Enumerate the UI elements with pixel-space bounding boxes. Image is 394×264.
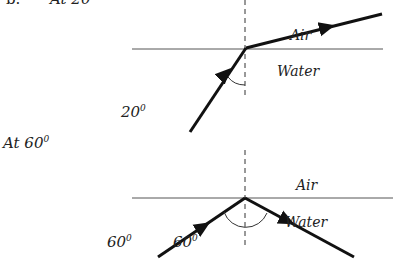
medium-air-label: Air: [288, 27, 313, 43]
angle-arc: [228, 77, 245, 85]
diagram-2-heading: At 600: [1, 134, 49, 152]
diagram-at-60: At 600 Air Water 600 600: [1, 134, 393, 257]
medium-water-label: Water: [277, 63, 320, 79]
incident-arrow-icon: [196, 226, 204, 231]
medium-air-label: Air: [294, 177, 319, 193]
refraction-diagrams: b. At 200 Air Water 200 At 600 Air Wat: [0, 0, 394, 264]
refracted-arrow-icon: [320, 27, 328, 29]
refracted-ray: [246, 14, 382, 48]
angle-label: 200: [120, 103, 146, 121]
angle-label-inner: 600: [173, 233, 198, 251]
medium-water-label: Water: [285, 214, 328, 230]
incident-ray: [190, 48, 246, 132]
diagram-at-20: b. At 200 Air Water 200: [6, 0, 383, 132]
angle-label-left: 600: [107, 233, 132, 251]
diagram-1-heading: At 200: [48, 0, 96, 8]
part-label: b.: [6, 0, 20, 8]
